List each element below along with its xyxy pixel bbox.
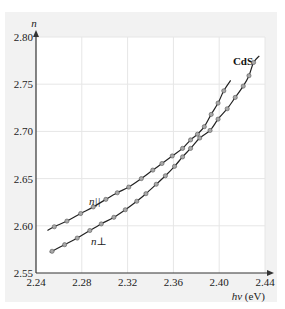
- data-point-marker: [88, 228, 92, 232]
- data-point-marker: [52, 225, 56, 229]
- data-point-marker: [115, 191, 119, 195]
- x-tick-label: 2.44: [255, 276, 275, 288]
- plot-area: [36, 37, 265, 273]
- data-point-marker: [233, 95, 237, 99]
- series-label-n-perp: n⊥: [91, 235, 107, 247]
- data-point-marker: [216, 117, 220, 121]
- data-point-marker: [247, 74, 251, 78]
- x-tick-label: 2.40: [210, 276, 230, 288]
- data-point-marker: [198, 136, 202, 140]
- y-axis-label: n: [31, 17, 37, 29]
- data-point-marker: [172, 164, 176, 168]
- data-point-marker: [160, 161, 164, 165]
- data-point-marker: [222, 89, 226, 93]
- data-point-marker: [99, 222, 103, 226]
- data-point-marker: [75, 236, 79, 240]
- y-tick-label: 2.55: [14, 267, 34, 279]
- x-axis-label: hν (eV): [232, 290, 266, 303]
- data-point-marker: [123, 208, 127, 212]
- x-tick-label: 2.28: [72, 276, 92, 288]
- y-tick-label: 2.75: [14, 78, 34, 90]
- y-axis-arrow-icon: [33, 30, 39, 37]
- y-tick-label: 2.80: [14, 31, 34, 43]
- data-point-marker: [180, 146, 184, 150]
- series-label-n-parallel: n||: [89, 195, 101, 207]
- x-tick-label: 2.32: [118, 276, 137, 288]
- data-point-marker: [241, 84, 245, 88]
- data-point-marker: [188, 138, 192, 142]
- y-tick-label: 2.65: [14, 173, 34, 185]
- y-tick-label: 2.60: [14, 220, 34, 232]
- data-point-marker: [251, 60, 255, 64]
- data-point-marker: [104, 197, 108, 201]
- data-point-marker: [144, 192, 148, 196]
- data-point-marker: [139, 177, 143, 181]
- refractive-index-chart: 2.242.282.322.362.402.442.552.602.652.70…: [0, 0, 285, 309]
- data-point-marker: [112, 215, 116, 219]
- data-point-marker: [154, 182, 158, 186]
- chart-title: CdS: [233, 55, 253, 67]
- y-tick-label: 2.70: [14, 125, 34, 137]
- x-tick-label: 2.36: [164, 276, 184, 288]
- data-point-marker: [65, 219, 69, 223]
- data-point-marker: [208, 128, 212, 132]
- data-point-marker: [127, 185, 131, 189]
- data-point-marker: [63, 243, 67, 247]
- data-point-marker: [195, 132, 199, 136]
- data-point-marker: [170, 154, 174, 158]
- data-point-marker: [188, 146, 192, 150]
- data-point-marker: [216, 101, 220, 105]
- data-point-marker: [135, 199, 139, 203]
- data-point-marker: [163, 174, 167, 178]
- data-point-marker: [202, 125, 206, 129]
- data-point-marker: [151, 168, 155, 172]
- data-point-marker: [180, 155, 184, 159]
- data-point-marker: [50, 249, 54, 253]
- data-point-marker: [209, 112, 213, 116]
- data-point-marker: [225, 107, 229, 111]
- data-point-marker: [79, 211, 83, 215]
